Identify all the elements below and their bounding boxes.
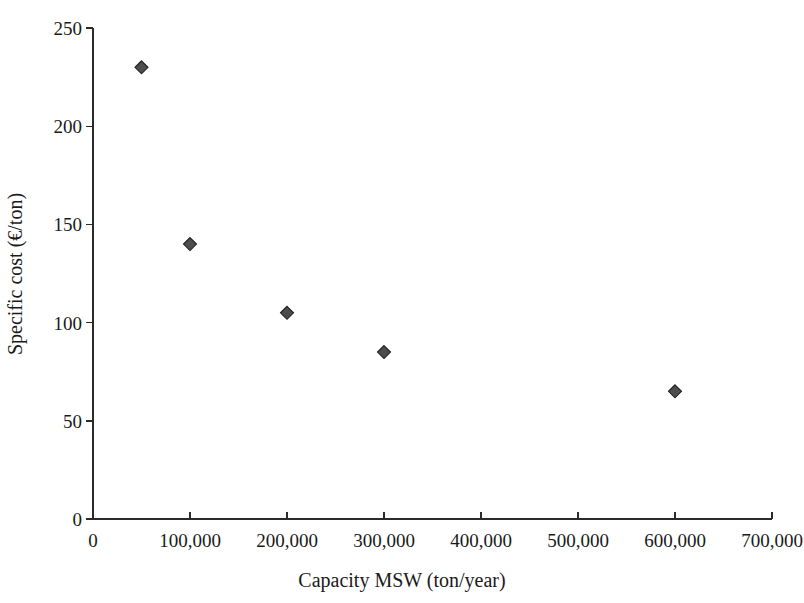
- data-markers-group: [135, 61, 682, 398]
- x-tick-label: 100,000: [159, 531, 221, 550]
- x-tick-label: 0: [88, 531, 98, 550]
- plot-area: [0, 0, 804, 603]
- x-tick-label: 300,000: [353, 531, 415, 550]
- scatter-chart-figure: 050100150200250 0100,000200,000300,00040…: [0, 0, 804, 603]
- y-axis-title: Specific cost (€/ton): [4, 14, 38, 534]
- data-point-marker: [184, 238, 197, 251]
- x-axis-title: Capacity MSW (ton/year): [0, 569, 804, 592]
- x-tick-label: 200,000: [256, 531, 318, 550]
- x-tick-label: 500,000: [547, 531, 609, 550]
- x-tick-label: 400,000: [450, 531, 512, 550]
- axes-group: [93, 28, 772, 519]
- data-point-marker: [135, 61, 148, 74]
- ticks-group: [86, 28, 772, 519]
- data-point-marker: [378, 346, 391, 359]
- x-tick-label: 700,000: [741, 531, 803, 550]
- data-point-marker: [281, 306, 294, 319]
- data-point-marker: [669, 385, 682, 398]
- x-tick-label: 600,000: [644, 531, 706, 550]
